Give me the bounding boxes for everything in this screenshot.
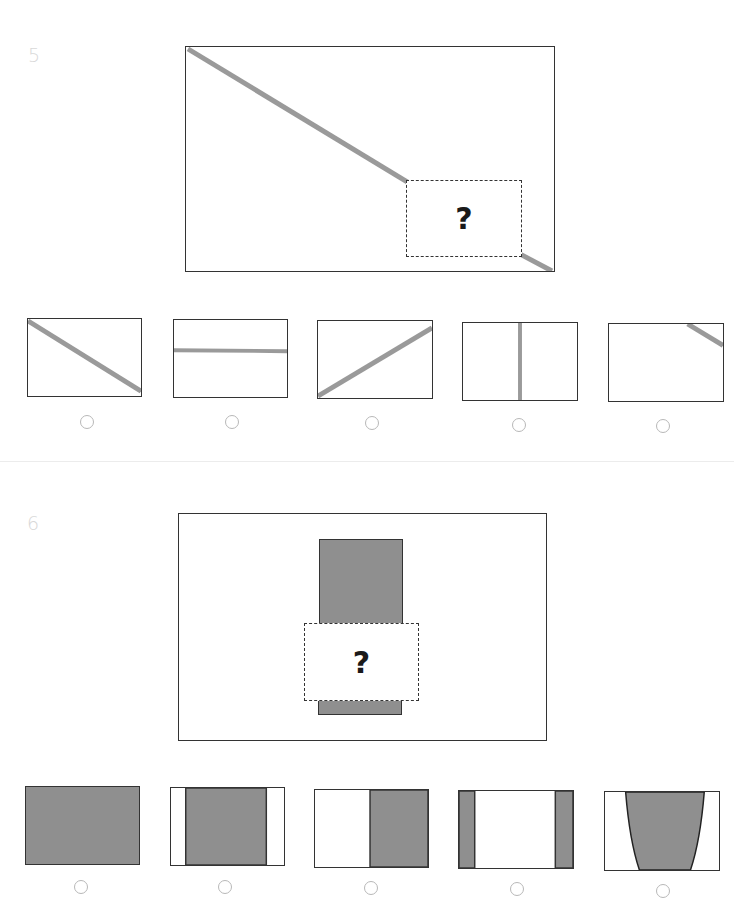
- vertical-line-icon: [463, 323, 577, 400]
- lower-gray-block: [318, 699, 402, 715]
- option-6e-radio[interactable]: [656, 884, 670, 898]
- option-5d[interactable]: [462, 322, 578, 401]
- option-5e[interactable]: [608, 323, 724, 402]
- side-bars-fill-icon: [459, 791, 573, 868]
- option-6a-radio[interactable]: [74, 880, 88, 894]
- center-fill-band-icon: [171, 788, 284, 865]
- option-6e[interactable]: [604, 791, 720, 871]
- question-number: 5: [28, 44, 40, 66]
- option-6c[interactable]: [314, 789, 429, 868]
- diagonal-up-line-icon: [318, 321, 432, 398]
- option-6d-radio[interactable]: [510, 882, 524, 896]
- option-5a[interactable]: [27, 318, 142, 397]
- question-number: 6: [27, 512, 39, 534]
- corner-segment-line-icon: [609, 324, 723, 401]
- option-6b[interactable]: [170, 787, 285, 866]
- option-6d[interactable]: [458, 790, 574, 869]
- option-5b[interactable]: [173, 319, 288, 398]
- question-mark: ?: [353, 645, 370, 680]
- horizontal-line-icon: [174, 320, 287, 397]
- option-5d-radio[interactable]: [512, 418, 526, 432]
- option-5e-radio[interactable]: [656, 419, 670, 433]
- option-6a[interactable]: [25, 786, 140, 865]
- option-6b-radio[interactable]: [218, 880, 232, 894]
- question-mark: ?: [455, 201, 472, 236]
- option-5c-radio[interactable]: [365, 416, 379, 430]
- tapered-fill-icon: [605, 792, 719, 870]
- diagonal-down-line-icon: [28, 319, 141, 396]
- upper-gray-block: [319, 539, 403, 625]
- option-6c-radio[interactable]: [364, 881, 378, 895]
- section-divider: [0, 461, 734, 462]
- missing-piece-placeholder: ?: [304, 623, 419, 701]
- option-5c[interactable]: [317, 320, 433, 399]
- option-5a-radio[interactable]: [80, 415, 94, 429]
- right-half-fill-icon: [315, 790, 428, 867]
- option-5b-radio[interactable]: [225, 415, 239, 429]
- missing-piece-placeholder: ?: [406, 180, 522, 257]
